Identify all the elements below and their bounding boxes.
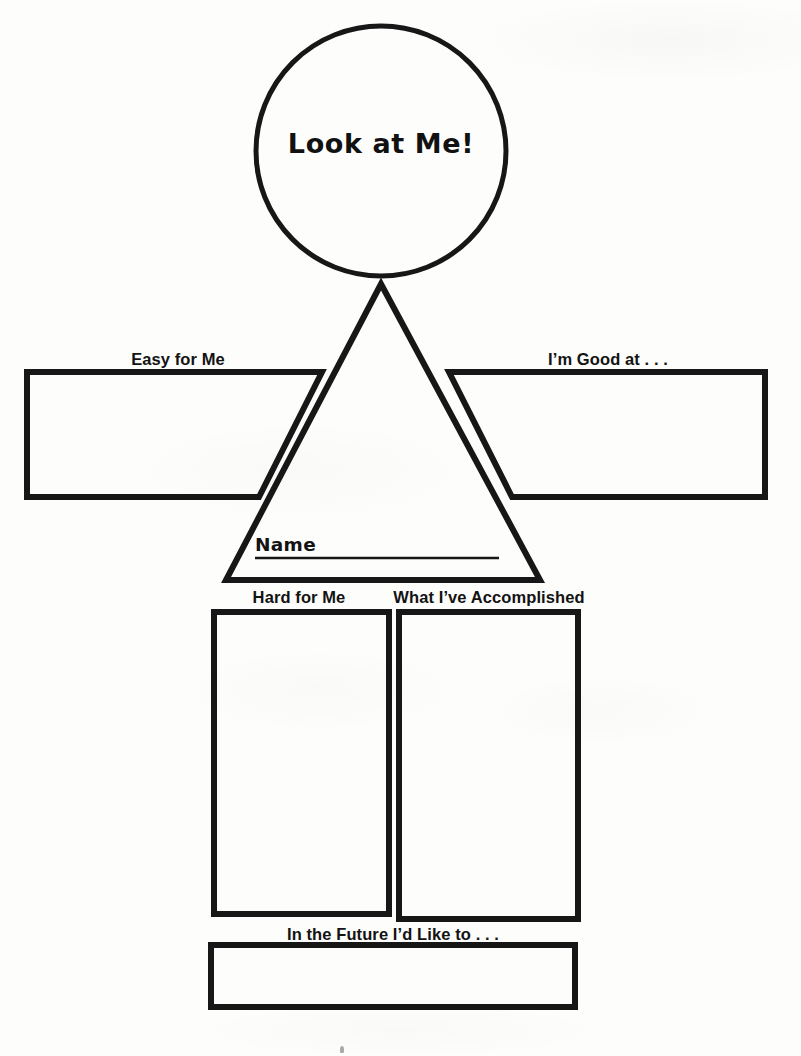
right-leg-box[interactable] <box>399 612 578 919</box>
worksheet-page: Look at Me! Easy for Me I’m Good at . . … <box>0 0 801 1056</box>
name-label: Name <box>255 534 316 555</box>
right-leg-label: What I’ve Accomplished <box>393 588 584 607</box>
footer-label: In the Future I’d Like to . . . <box>287 925 499 944</box>
left-leg-box[interactable] <box>214 612 389 914</box>
page-title: Look at Me! <box>288 128 474 159</box>
scan-speck <box>340 1046 344 1053</box>
left-arm-label: Easy for Me <box>131 350 225 369</box>
footer-box[interactable] <box>211 945 575 1007</box>
right-arm-box[interactable] <box>449 372 765 497</box>
left-leg-label: Hard for Me <box>253 588 346 607</box>
right-arm-label: I’m Good at . . . <box>548 350 668 369</box>
